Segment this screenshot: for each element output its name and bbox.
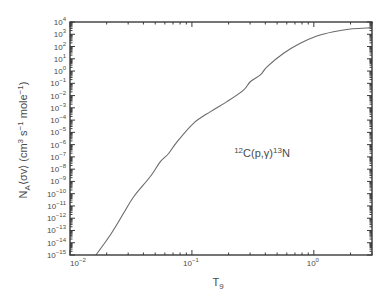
- y-tick-label-exp: 1: [63, 53, 67, 59]
- plot-frame: [70, 22, 372, 255]
- y-tick-label: 10−4: [50, 114, 66, 125]
- y-tick-label: 10−11: [47, 200, 66, 211]
- data-series: [95, 28, 372, 256]
- tick-labels: 10−210−110010410310210110010−110−210−310…: [47, 16, 320, 268]
- y-tick-label: 10−6: [50, 139, 66, 150]
- y-axis-title-group: NA​⟨σv⟩ (cm3​ s−1​ mole−1​): [16, 82, 32, 199]
- y-tick-label-exp: −4: [59, 114, 67, 120]
- y-tick-label-exp: −9: [59, 175, 67, 181]
- y-tick-label-exp: −6: [59, 139, 67, 145]
- y-tick-label-exp: −1: [59, 77, 67, 83]
- rate-curve: [95, 28, 372, 256]
- y-tick-label: 10−7: [50, 151, 66, 162]
- y-tick-label-exp: −7: [59, 151, 67, 157]
- y-tick-label: 10−13: [47, 224, 67, 235]
- y-tick-label: 10−14: [47, 237, 67, 248]
- y-tick-label: 10−1: [50, 77, 66, 88]
- x-tick-label-exp: 0: [316, 257, 320, 263]
- y-tick-label-exp: −15: [56, 249, 67, 255]
- x-tick-label-exp: −1: [192, 257, 200, 263]
- y-axis-title-part: mole: [17, 94, 29, 121]
- reaction-label: 12​C(p,γ)13​N: [234, 146, 290, 159]
- y-tick-label: 10−12: [47, 212, 67, 223]
- y-tick-label-exp: 0: [63, 65, 67, 71]
- axis-ticks: [70, 22, 372, 255]
- x-axis-title-part: 9: [219, 282, 224, 291]
- y-tick-label-exp: −11: [56, 200, 66, 206]
- y-tick-label: 10−3: [50, 102, 66, 113]
- y-tick-label: 10−5: [50, 126, 66, 137]
- x-tick-label: 10−1: [183, 257, 199, 268]
- y-tick-label: 10−9: [50, 175, 66, 186]
- y-tick-label-exp: −10: [56, 188, 67, 194]
- y-tick-label: 10−2: [50, 90, 66, 101]
- y-tick-label-exp: −2: [59, 90, 67, 96]
- x-tick-label: 10−2: [70, 257, 86, 268]
- y-tick-label: 101: [54, 53, 67, 64]
- y-tick-label-exp: −14: [56, 237, 67, 243]
- y-axis-title: NA​⟨σv⟩ (cm3​ s−1​ mole−1​): [16, 82, 32, 199]
- y-tick-label: 103: [54, 28, 67, 39]
- y-tick-label-exp: −12: [56, 212, 67, 218]
- y-tick-label-exp: −8: [59, 163, 67, 169]
- y-axis-title-part: ⟨σv⟩ (cm: [17, 143, 29, 185]
- y-tick-label-exp: −3: [59, 102, 67, 108]
- y-tick-label-exp: 4: [63, 16, 67, 22]
- chart-figure: 10−210−110010410310210110010−110−210−310…: [0, 0, 392, 301]
- chart-plot: 10−210−110010410310210110010−110−210−310…: [0, 0, 392, 301]
- y-tick-label-exp: 3: [63, 28, 67, 34]
- y-tick-label: 104: [54, 16, 67, 27]
- y-tick-label-exp: 2: [63, 41, 67, 47]
- y-tick-label: 10−8: [50, 163, 66, 174]
- y-tick-label-exp: −13: [56, 224, 67, 230]
- reaction-label-part: N: [282, 147, 290, 159]
- x-axis-title: T9​: [212, 276, 224, 291]
- y-axis-title-part: ): [17, 82, 29, 86]
- y-tick-label-exp: −5: [59, 126, 67, 132]
- reaction-label-part: C(p,γ): [243, 147, 273, 159]
- x-tick-label: 100: [307, 257, 320, 268]
- x-tick-label-exp: −2: [79, 257, 87, 263]
- annotations: 12​C(p,γ)13​N: [234, 146, 290, 159]
- y-tick-label: 10−10: [47, 188, 67, 199]
- y-tick-label: 100: [54, 65, 67, 76]
- y-tick-label: 102: [54, 41, 67, 52]
- y-axis-title-part: N: [17, 190, 29, 198]
- y-tick-label: 10−15: [47, 249, 67, 260]
